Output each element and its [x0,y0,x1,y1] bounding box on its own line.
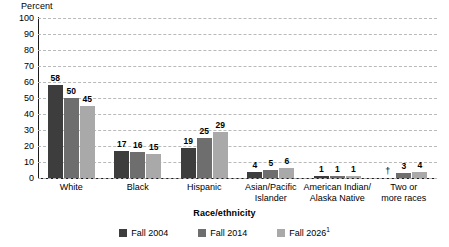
chart-legend: Fall 2004Fall 2014Fall 20261 [0,228,449,238]
gridline [38,34,437,35]
y-axis-tick-labels: 1009080706050403020100 [0,18,34,178]
bar [279,168,294,178]
gridline [38,114,437,115]
bar [197,138,212,178]
gridline [38,178,437,179]
bar [263,170,278,178]
legend-swatch [198,229,206,237]
y-axis-tick-label: 10 [0,158,34,167]
y-axis-tick-label: 60 [0,78,34,87]
bar-value-label: 58 [43,74,68,83]
bar-value-label: 6 [274,157,299,166]
y-axis-tick-label: 40 [0,110,34,119]
y-axis-tick-label: 50 [0,94,34,103]
bar [412,172,427,178]
legend-item: Fall 20261 [277,228,330,238]
gridline [38,82,437,83]
bar [330,176,345,178]
y-axis-tick-label: 20 [0,142,34,151]
bar [346,176,361,178]
bar [114,151,129,178]
plot-area: 585045171615192529456111†34 [38,18,437,178]
bar-value-label: 45 [75,95,100,104]
bar-value-label: 29 [208,121,233,130]
gridline [38,50,437,51]
bar [396,173,411,178]
bar [64,98,79,178]
legend-item: Fall 2014 [198,228,247,238]
gridline [38,162,437,163]
legend-item: Fall 2004 [119,228,168,238]
y-axis-tick-label: 100 [0,14,34,23]
y-axis-title: Percent [21,1,53,12]
legend-label: Fall 2014 [210,228,247,238]
bar [181,148,196,178]
gridline [38,130,437,131]
bar [213,132,228,178]
gridline [38,18,437,19]
legend-label: Fall 2004 [131,228,168,238]
y-axis-tick-label: 90 [0,30,34,39]
bar [48,85,63,178]
legend-swatch [277,229,285,237]
y-axis-tick-label: 70 [0,62,34,71]
bar-value-label: 4 [407,161,432,170]
legend-swatch [119,229,127,237]
x-axis-title: Race/ethnicity [0,208,449,218]
y-axis-tick-label: 30 [0,126,34,135]
bar [247,172,262,178]
gridline [38,66,437,67]
gridline [38,146,437,147]
x-axis-category-label: Two or more races [361,182,448,203]
y-axis-tick-label: 80 [0,46,34,55]
bar [314,176,329,178]
bar [80,106,95,178]
legend-label-superscript: 1 [326,226,330,233]
legend-label: Fall 20261 [289,228,330,238]
bar-chart: Percent 1009080706050403020100 585045171… [0,0,449,247]
bar [130,152,145,178]
bar-value-label: 1 [341,165,366,174]
bar [146,154,161,178]
bar-value-label: 15 [141,143,166,152]
